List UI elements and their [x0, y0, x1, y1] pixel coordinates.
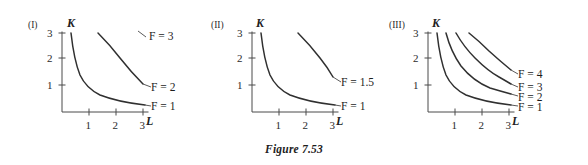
panel-3-label-f4: F = 4 — [518, 68, 543, 80]
panel-1-leader-f2 — [143, 84, 151, 87]
figure-caption: Figure 7.53 — [0, 143, 588, 155]
panel-1-y-axis-label: K — [66, 16, 76, 30]
panel-3-curve-f2 — [446, 33, 511, 94]
panel-2-plot: (II) K L 1 2 3 1 2 3 — [190, 0, 386, 145]
panel-2-y-tick-3: 3 — [237, 27, 243, 39]
panel-2-x-tick-1: 1 — [276, 119, 282, 131]
panel-2-y-axis-label: K — [255, 16, 265, 30]
figure-7-53: (I) K L 1 2 3 1 2 3 — [0, 0, 588, 165]
panel-3-y-tick-1: 1 — [413, 79, 419, 91]
panel-3-number: (III) — [389, 20, 405, 31]
panel-3-x-tick-1: 1 — [452, 119, 458, 131]
panel-1-curve-f2 — [98, 33, 143, 84]
panel-1-label-f1: F = 1 — [151, 100, 176, 112]
panel-1-label-f2: F = 2 — [151, 81, 176, 93]
panel-3-leader-f4 — [511, 70, 518, 74]
panel-2: (II) K L 1 2 3 1 2 3 — [190, 0, 386, 145]
panel-3-x-tick-3: 3 — [506, 119, 512, 131]
panel-3-leader-f1 — [511, 105, 518, 106]
panel-1-y-tick-1: 1 — [47, 79, 53, 91]
panel-2-leader-f15 — [333, 77, 341, 82]
panel-3-axes — [428, 32, 514, 112]
panel-1-x-tick-1: 1 — [86, 119, 92, 131]
panel-1-leader-f3 — [138, 31, 146, 37]
panel-2-x-tick-3: 3 — [330, 119, 336, 131]
panel-3-curve-f1 — [437, 33, 511, 105]
panel-2-x-tick-2: 2 — [303, 119, 309, 131]
panel-2-label-f1: F = 1 — [341, 100, 366, 112]
panel-3-label-f1: F = 1 — [518, 101, 543, 113]
panel-1-y-tick-2: 2 — [47, 52, 53, 64]
panel-3-plot: (III) K L 1 2 3 1 2 3 — [378, 0, 588, 145]
panel-1-x-tick-2: 2 — [113, 119, 119, 131]
panel-3-x-tick-2: 2 — [479, 119, 485, 131]
panel-3-y-axis-label: K — [431, 16, 441, 30]
panel-1-axes — [62, 32, 148, 112]
panel-1-number: (I) — [28, 20, 38, 31]
panel-3-curve-f3 — [456, 33, 511, 84]
panel-1: (I) K L 1 2 3 1 2 3 — [0, 0, 196, 145]
panel-2-curve-f15 — [298, 33, 333, 77]
panel-2-number: (II) — [211, 20, 224, 31]
panel-2-y-tick-1: 1 — [237, 79, 243, 91]
panel-3-y-tick-3: 3 — [413, 27, 419, 39]
panel-1-y-tick-3: 3 — [47, 27, 53, 39]
panel-2-label-f15: F = 1.5 — [341, 76, 374, 88]
panel-3-leader-f2 — [511, 94, 518, 96]
panel-2-x-axis-label: L — [335, 114, 343, 128]
panel-1-x-axis-label: L — [145, 114, 153, 128]
panel-3-y-tick-2: 2 — [413, 52, 419, 64]
panel-3-leader-f3 — [511, 84, 518, 87]
panel-3: (III) K L 1 2 3 1 2 3 — [378, 0, 574, 145]
panel-1-plot: (I) K L 1 2 3 1 2 3 — [0, 0, 196, 145]
panel-1-label-f3: F = 3 — [149, 30, 174, 42]
panel-2-y-tick-2: 2 — [237, 52, 243, 64]
panel-1-x-tick-3: 3 — [140, 119, 146, 131]
panel-2-axes — [252, 32, 338, 112]
panel-2-curve-f1 — [261, 33, 335, 105]
panel-3-x-axis-label: L — [511, 114, 519, 128]
panel-3-curve-f4 — [469, 33, 511, 70]
